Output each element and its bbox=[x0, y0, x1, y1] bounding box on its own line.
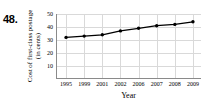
x-axis-tick-label: 2001 bbox=[96, 81, 108, 87]
problem-number: 48. bbox=[3, 14, 17, 25]
data-point-marker bbox=[82, 34, 85, 37]
x-axis-tick-label: 2008 bbox=[169, 81, 181, 87]
data-point-marker bbox=[137, 27, 140, 30]
y-axis-title-line-2: (in cents) bbox=[34, 8, 42, 84]
data-point-marker bbox=[155, 24, 158, 27]
y-axis-tick-label: 40 bbox=[39, 24, 53, 30]
figure-container: 48. Cost of first-class postage (in cent… bbox=[0, 0, 206, 105]
data-point-marker bbox=[101, 33, 104, 36]
x-axis-tick-label: 2009 bbox=[187, 81, 199, 87]
x-axis-tick-label: 1995 bbox=[60, 81, 72, 87]
line-series bbox=[57, 14, 202, 79]
x-axis-tick-label: 2002 bbox=[114, 81, 126, 87]
y-axis-tick-label: 20 bbox=[39, 50, 53, 56]
y-axis-title-line-1: Cost of first-class postage bbox=[26, 8, 34, 84]
data-point-marker bbox=[64, 36, 67, 39]
data-point-marker bbox=[173, 23, 176, 26]
x-axis-tick-label: 2006 bbox=[133, 81, 145, 87]
plot-area: 1020304050199519992001200220062007200820… bbox=[56, 14, 201, 79]
x-axis-tick-label: 1999 bbox=[78, 81, 90, 87]
data-point-marker bbox=[119, 29, 122, 32]
y-axis-tick-label: 10 bbox=[39, 63, 53, 69]
x-axis-tick-label: 2007 bbox=[151, 81, 163, 87]
y-axis-tick-label: 50 bbox=[39, 11, 53, 17]
y-axis-title: Cost of first-class postage (in cents) bbox=[22, 8, 46, 84]
data-point-marker bbox=[191, 20, 194, 23]
y-axis-tick-label: 30 bbox=[39, 37, 53, 43]
x-axis-title: Year bbox=[56, 91, 201, 100]
